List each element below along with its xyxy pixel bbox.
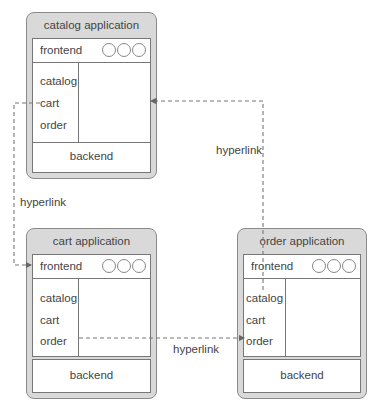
connector-order-to-catalog: [151, 101, 263, 290]
connector-catalog-to-cart: [14, 103, 40, 265]
hyperlink-label-left: hyperlink: [20, 196, 66, 208]
hyperlink-label-right: hyperlink: [216, 144, 262, 156]
hyperlink-label-bottom: hyperlink: [173, 343, 219, 355]
